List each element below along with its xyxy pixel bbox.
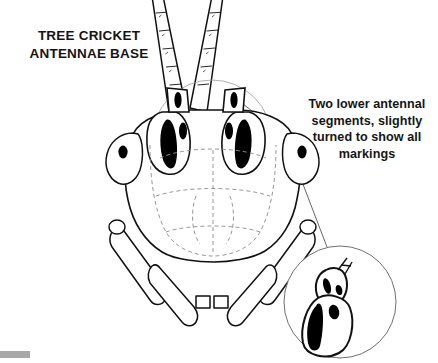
left-scape-marking-minor [179,123,187,140]
tree-cricket-head-illustration [0,0,438,363]
left-compound-eye [106,133,142,184]
left-pedicel-marking [174,92,181,108]
left-lateral-ocellus [118,146,127,159]
labium-left-plate [196,296,210,308]
figure-canvas: TREE CRICKET ANTENNAE BASE [0,0,438,363]
right-antenna-shaft [190,0,223,112]
right-palp-base-joint [300,220,316,234]
right-scape-marking-minor [225,123,233,140]
left-palp-base-joint [109,220,125,234]
callout-annotation-text: Two lower antennal segments, slightly tu… [296,96,438,162]
detail-inset [284,246,396,358]
labium-right-plate [214,296,228,308]
right-pedicel-marking [230,92,237,108]
scrollbar-fragment[interactable] [0,351,30,358]
